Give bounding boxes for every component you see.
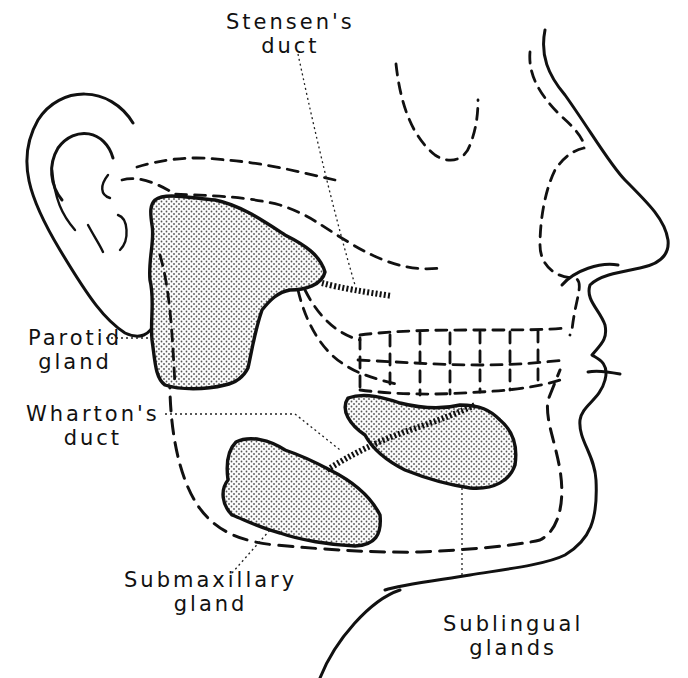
label-line: Wharton's	[26, 402, 160, 426]
label-line: Sublingual	[443, 612, 583, 636]
sublingual-glands	[345, 395, 516, 488]
label-line: Submaxillary	[124, 568, 297, 592]
label-stensens-duct: Stensen's duct	[226, 10, 355, 58]
label-line: glands	[443, 636, 583, 660]
salivary-glands-diagram: Stensen's duct Parotid gland Wharton's d…	[0, 0, 688, 678]
label-submaxillary-gland: Submaxillary gland	[124, 568, 297, 616]
label-line: gland	[124, 592, 297, 616]
label-line: duct	[26, 426, 160, 450]
label-parotid-gland: Parotid gland	[28, 326, 122, 374]
ear-outline	[27, 94, 155, 336]
label-line: duct	[226, 34, 355, 58]
label-line: gland	[28, 350, 122, 374]
label-line: Parotid	[28, 326, 122, 350]
submaxillary-gland	[223, 439, 380, 546]
label-sublingual-glands: Sublingual glands	[443, 612, 583, 660]
face-profile	[320, 30, 668, 678]
stensens-duct	[322, 283, 392, 296]
label-whartons-duct: Wharton's duct	[26, 402, 160, 450]
label-line: Stensen's	[226, 10, 355, 34]
